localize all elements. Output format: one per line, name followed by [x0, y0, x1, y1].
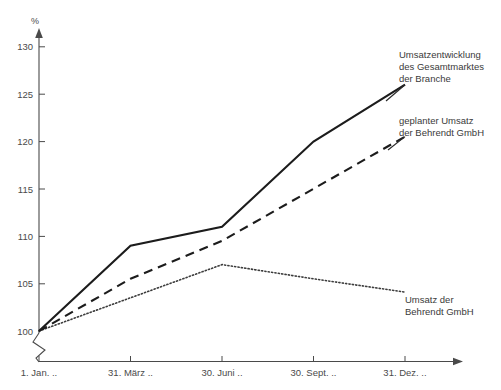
y-axis-ticks: 130 125 120 115 110 105 100 [17, 41, 45, 336]
y-tick-label-100: 100 [17, 326, 33, 337]
line-chart: % 130 125 120 115 110 105 100 [0, 0, 501, 390]
x-axis [39, 358, 463, 366]
series-line-planned-revenue [39, 137, 405, 331]
series-line-market-development [39, 85, 405, 331]
series-line-actual-revenue [39, 265, 405, 331]
annotation-actual: Umsatz der Behrendt GmbH [405, 294, 474, 317]
leader-line-planned [388, 137, 405, 150]
leader-line-market [386, 85, 405, 101]
annotation-planned-line1: geplanter Umsatz [399, 115, 474, 126]
x-tick-label-juni: 30. Juni .. [201, 367, 242, 378]
annotation-market: Umsatzentwicklung des Gesamtmarktes der … [399, 49, 484, 84]
y-axis-arrowhead [35, 28, 43, 38]
x-tick-label-sept: 30. Sept. .. [291, 367, 337, 378]
annotation-market-line3: der Branche [399, 73, 451, 84]
y-tick-label-110: 110 [18, 231, 33, 242]
y-tick-label-125: 125 [17, 89, 33, 100]
annotation-market-line2: des Gesamtmarktes [399, 61, 484, 72]
y-axis-unit-label: % [31, 16, 39, 26]
y-tick-label-130: 130 [17, 41, 33, 52]
chart-canvas: % 130 125 120 115 110 105 100 [0, 0, 501, 390]
y-tick-label-120: 120 [17, 136, 33, 147]
y-axis [35, 28, 43, 333]
x-tick-label-jan: 1. Jan. .. [21, 367, 57, 378]
annotation-actual-line2: Behrendt GmbH [405, 306, 474, 317]
x-tick-label-maerz: 31. März .. [108, 367, 153, 378]
annotation-planned-line2: der Behrendt GmbH [399, 127, 484, 138]
x-axis-arrowhead [453, 358, 463, 366]
y-tick-label-105: 105 [17, 278, 33, 289]
x-axis-ticks: 1. Jan. .. 31. März .. 30. Juni .. 30. S… [21, 356, 427, 378]
x-tick-label-dez: 31. Dez. .. [383, 367, 426, 378]
annotation-planned: geplanter Umsatz der Behrendt GmbH [399, 115, 484, 138]
annotation-market-line1: Umsatzentwicklung [399, 49, 481, 60]
annotation-actual-line1: Umsatz der [405, 294, 454, 305]
y-tick-label-115: 115 [18, 184, 33, 195]
